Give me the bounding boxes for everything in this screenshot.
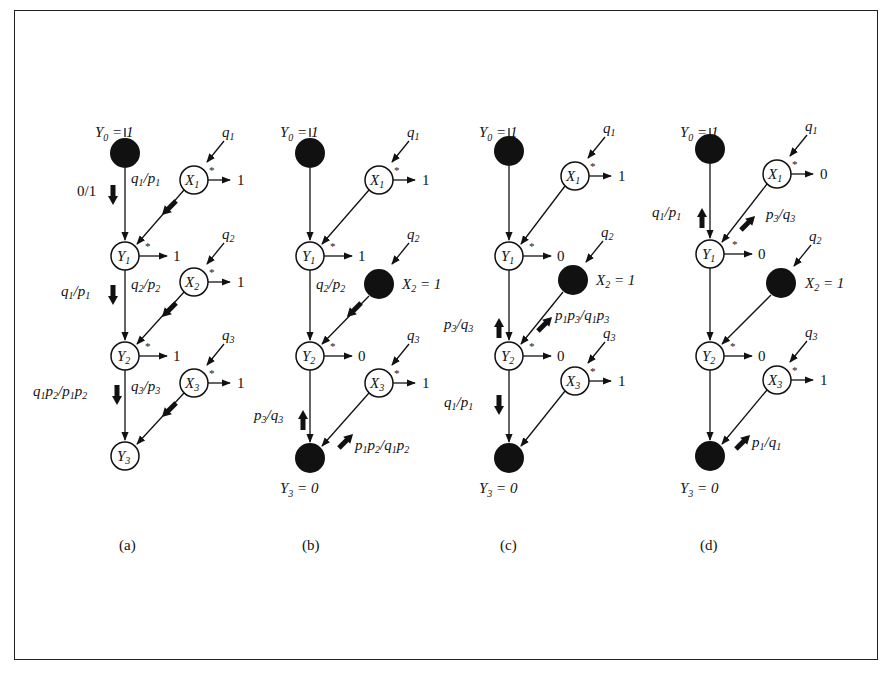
svg-text:Y3 = 0: Y3 = 0 [479,480,518,499]
svg-text:*: * [590,365,596,377]
svg-text:q1/p1: q1/p1 [131,170,160,188]
svg-text:0: 0 [557,248,565,264]
svg-text:*: * [209,266,215,278]
y3-node-filled [295,443,325,473]
svg-text:*: * [529,240,535,252]
svg-text:q1: q1 [805,118,818,136]
svg-text:q2: q2 [222,226,235,244]
svg-text:q2/p2: q2/p2 [316,276,345,294]
svg-text:1: 1 [422,375,430,391]
svg-text:0: 0 [358,348,366,364]
caption-a: (a) [119,537,136,554]
svg-text:q1: q1 [603,120,616,138]
svg-text:X2 = 1: X2 = 1 [401,276,441,294]
svg-text:*: * [330,240,336,252]
svg-text:1: 1 [237,172,245,188]
svg-text:0: 0 [758,348,766,364]
svg-text:*: * [394,164,400,176]
y0-node-filled [110,138,140,168]
svg-text:Y3 = 0: Y3 = 0 [280,480,319,499]
svg-text:*: * [330,340,336,352]
svg-text:q2: q2 [601,224,614,242]
svg-text:q3: q3 [603,325,616,343]
svg-text:q1: q1 [407,124,420,142]
svg-text:*: * [145,340,151,352]
svg-text:p1/q1: p1/q1 [751,434,781,452]
svg-text:1: 1 [422,172,430,188]
svg-text:q1/p1: q1/p1 [444,394,473,412]
svg-text:1: 1 [618,168,626,184]
svg-text:X2 = 1: X2 = 1 [804,275,844,293]
svg-text:*: * [209,164,215,176]
svg-text:*: * [394,367,400,379]
svg-text:0: 0 [758,246,766,262]
svg-text:*: * [792,364,798,376]
svg-text:q2: q2 [809,228,822,246]
caption-d: (d) [700,537,718,554]
svg-text:Y3 = 0: Y3 = 0 [680,480,719,499]
svg-text:1: 1 [173,348,181,364]
flow-label: 0/1 [77,183,96,199]
svg-text:p3/q3: p3/q3 [253,407,283,425]
y1-output: 1 [173,248,181,264]
panel-a: Y0 = 1 Y1 * 1 Y2 * 1 Y3 X1 * 1 q1 X2 * [33,124,245,470]
svg-text:1: 1 [237,375,245,391]
svg-text:q1p2/p1p2: q1p2/p1p2 [33,383,87,401]
svg-text:q2/p2: q2/p2 [131,276,160,294]
svg-text:*: * [145,240,151,252]
svg-text:q1: q1 [222,124,235,142]
svg-text:q2: q2 [407,226,420,244]
belief-network-figure: Y0 = 1 Y1 * 1 Y2 * 1 Y3 X1 * 1 q1 X2 * [0,0,893,691]
svg-text:1: 1 [820,372,828,388]
panel-c: Y0 = 1 Y1 * 0 Y2 * 0 Y3 = 0 X1 * 1 q1 X2… [443,120,635,499]
svg-text:*: * [732,238,738,250]
svg-text:0: 0 [557,348,565,364]
svg-text:q1/p1: q1/p1 [61,283,90,301]
svg-text:p1p3/q1p3: p1p3/q1p3 [554,307,609,325]
flow-arrow-up-icon [298,410,308,430]
svg-text:X2 = 1: X2 = 1 [595,272,635,290]
svg-text:p3/q3: p3/q3 [765,206,795,224]
svg-text:1: 1 [618,373,626,389]
caption-c: (c) [500,537,517,554]
svg-text:q1/p1: q1/p1 [652,204,681,222]
svg-text:*: * [209,367,215,379]
svg-text:p3/q3: p3/q3 [443,316,473,334]
svg-text:*: * [529,340,535,352]
panel-d: Y0 = 1 Y1 * 0 Y2 * 0 Y3 = 0 X1 * 0 q1 X2… [652,118,844,499]
svg-text:q3/p3: q3/p3 [131,378,160,396]
svg-text:q3: q3 [407,327,420,345]
svg-text:q3: q3 [222,327,235,345]
y0-node-filled [295,138,325,168]
svg-text:1: 1 [237,274,245,290]
svg-text:*: * [590,160,596,172]
flow-arrow-down-icon [108,185,118,205]
svg-text:q3: q3 [805,324,818,342]
caption-b: (b) [302,537,320,554]
svg-text:1: 1 [358,248,366,264]
svg-text:p1p2/q1p2: p1p2/q1p2 [354,437,409,455]
x2-node-filled [364,269,394,299]
svg-text:0: 0 [820,166,828,182]
svg-text:*: * [792,158,798,170]
svg-text:*: * [730,340,736,352]
panel-b: Y0 = 1 Y1 * 1 Y2 * 0 Y3 = 0 X1 * 1 q1 X2… [253,124,441,499]
